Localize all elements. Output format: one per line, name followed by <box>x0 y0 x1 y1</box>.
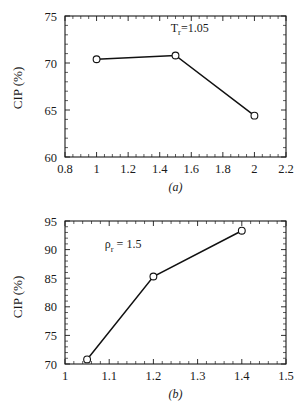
y-tick-label: 60 <box>45 151 58 165</box>
x-tick-label: 1.2 <box>120 162 136 176</box>
chart-plot-a: 0.811.21.41.61.822.260657075CIP (%)Tr=1.… <box>0 0 305 205</box>
y-tick-label: 80 <box>45 300 58 314</box>
x-tick-label: 1.6 <box>183 162 199 176</box>
x-tick-label: 1 <box>93 162 99 176</box>
y-axis-title: CIP (%) <box>10 67 25 110</box>
panel-caption: (a) <box>169 180 183 194</box>
y-tick-label: 75 <box>45 10 58 24</box>
series-line <box>97 55 255 115</box>
x-tick-label: 1.2 <box>146 369 162 383</box>
x-tick-label: 1.1 <box>101 369 117 383</box>
chart-annotation: Tr=1.05 <box>171 21 209 38</box>
x-tick-label: 1.5 <box>278 369 294 383</box>
data-point-marker <box>150 273 157 280</box>
plot-frame <box>65 16 286 157</box>
y-tick-label: 75 <box>45 329 58 343</box>
panel-caption: (b) <box>169 387 183 401</box>
y-tick-label: 95 <box>45 215 58 229</box>
x-tick-label: 1.3 <box>190 369 206 383</box>
data-point-marker <box>251 112 258 119</box>
figure-container: 0.811.21.41.61.822.260657075CIP (%)Tr=1.… <box>0 0 305 417</box>
y-tick-label: 90 <box>45 243 58 257</box>
y-tick-label: 65 <box>45 104 58 118</box>
x-tick-label: 2.2 <box>278 162 294 176</box>
x-tick-label: 0.8 <box>57 162 73 176</box>
x-tick-label: 1.4 <box>234 369 250 383</box>
data-point-marker <box>93 56 100 63</box>
chart-annotation: ρr = 1.5 <box>105 237 142 254</box>
data-point-marker <box>84 356 91 363</box>
y-axis-title: CIP (%) <box>10 276 25 319</box>
plot-frame <box>65 221 286 364</box>
x-tick-label: 2 <box>251 162 257 176</box>
x-tick-label: 1.8 <box>215 162 231 176</box>
data-point-marker <box>172 52 179 59</box>
chart-panel-b: 11.11.21.31.41.5707580859095CIP (%)ρr = … <box>0 205 305 417</box>
x-tick-label: 1 <box>62 369 68 383</box>
data-point-marker <box>238 227 245 234</box>
chart-plot-b: 11.11.21.31.41.5707580859095CIP (%)ρr = … <box>0 205 305 417</box>
chart-panel-a: 0.811.21.41.61.822.260657075CIP (%)Tr=1.… <box>0 0 305 205</box>
y-tick-label: 70 <box>45 57 58 71</box>
x-tick-label: 1.4 <box>152 162 168 176</box>
y-tick-label: 70 <box>45 358 58 372</box>
y-tick-label: 85 <box>45 272 58 286</box>
